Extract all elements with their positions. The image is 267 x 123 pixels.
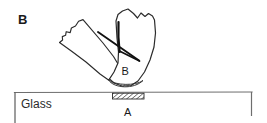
glass-substrate-label: Glass [21,97,52,111]
contact-patch-a [113,93,145,99]
line-drawing-canvas: B Glass B A [0,0,267,123]
glass-top-surface-line [15,92,253,93]
specimen-point-label-b: B [122,65,129,77]
interface-point-label-a: A [124,106,132,118]
contact-patch-rect [113,93,145,99]
panel-letter-label: B [18,12,27,27]
figure-panel-b: B Glass B A [0,0,267,123]
